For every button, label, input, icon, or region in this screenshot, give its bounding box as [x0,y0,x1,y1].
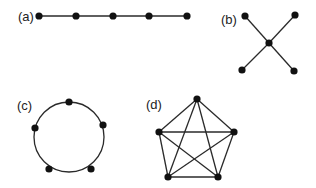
graph-diagram: (a) (b) (c) (d) [0,0,316,188]
graph-node [87,165,94,172]
graph-edge [218,132,234,177]
graph-node [214,173,221,180]
graph-node [164,173,171,180]
graph-edge [245,16,269,43]
cycle-edge-circle [34,102,104,172]
graph-node [290,67,297,74]
graph-node [155,128,162,135]
panel-b-star-graph: (b) [221,11,299,74]
panel-label: (c) [17,98,32,113]
panel-c-cycle-graph: (c) [17,98,107,173]
graph-node [265,39,272,46]
graph-node [35,12,42,19]
graph-node [65,98,72,105]
graph-edge [159,132,168,177]
graph-edge [242,43,269,70]
graph-edge [269,15,295,43]
graph-node [183,12,190,19]
graph-node [291,11,298,18]
graph-edge [197,99,234,132]
graph-node [145,12,152,19]
graph-edge [159,132,218,177]
graph-node [230,128,237,135]
graph-edge [168,99,197,177]
panel-a-path-graph: (a) [18,9,191,24]
panel-label: (d) [146,97,162,112]
graph-edge [197,99,218,177]
graph-node [72,12,79,19]
graph-node [31,124,38,131]
graph-edge [269,43,294,71]
graph-node [109,12,116,19]
graph-node [45,165,52,172]
graph-edge [168,132,234,177]
graph-node [99,121,106,128]
graph-node [241,12,248,19]
panel-label: (b) [221,12,237,27]
graph-node [238,66,245,73]
panel-d-complete-graph: (d) [146,95,238,180]
panel-label: (a) [18,9,34,24]
graph-node [193,95,200,102]
